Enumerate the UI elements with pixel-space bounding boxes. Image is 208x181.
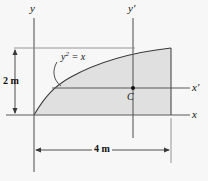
x-prime-axis-label: x′ <box>192 82 199 93</box>
x-axis-label: x <box>192 109 197 120</box>
equation-rest: = x <box>69 51 85 62</box>
equation-leader-line <box>54 62 61 86</box>
shaded-region <box>34 48 171 115</box>
height-dimension-label: 2 m <box>3 76 19 86</box>
centroid-label: C <box>127 92 134 102</box>
curve-equation-label: y2 = x <box>61 51 85 62</box>
y-axis-label: y <box>30 3 35 14</box>
figure-container: y y′ x′ x C y2 = x 2 m 4 m <box>0 0 208 181</box>
width-dimension-label: 4 m <box>92 144 112 154</box>
y-prime-axis-label: y′ <box>128 3 135 14</box>
centroid-dot <box>131 86 135 90</box>
